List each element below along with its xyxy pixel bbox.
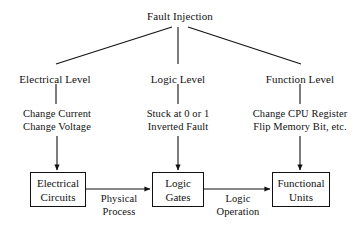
level-label-electrical: Electrical Level [19,73,91,86]
method-electrical-line2: Change Voltage [23,120,91,133]
box-electrical-circuits-line2: Circuits [41,190,76,204]
method-electrical-line1: Change Current [23,108,91,119]
edge-label-logic-operation: Logic Operation [217,192,260,218]
box-functional-units-line2: Units [289,190,313,204]
box-functional-units-line1: Functional [277,176,324,190]
edge-label-physical-process-line1: Physical [101,193,137,204]
connector-root-to-function [188,27,301,64]
box-logic-gates: Logic Gates [152,172,204,207]
fault-injection-diagram: Fault Injection Electrical Level Logic L… [0,0,363,228]
edge-label-physical-process-line2: Process [101,205,137,218]
box-logic-gates-line1: Logic [165,176,191,190]
edge-label-logic-operation-line2: Operation [217,205,260,218]
box-logic-gates-line2: Gates [165,190,190,204]
method-electrical: Change Current Change Voltage [23,107,91,133]
method-logic-line2: Inverted Fault [147,120,210,133]
root-node-label: Fault Injection [147,10,213,23]
box-electrical-circuits: Electrical Circuits [30,172,86,207]
level-label-logic: Logic Level [151,73,206,86]
edge-label-physical-process: Physical Process [101,192,137,218]
edge-label-logic-operation-line1: Logic [225,193,250,204]
method-logic-line1: Stuck at 0 or 1 [147,108,210,119]
level-label-function: Function Level [266,73,334,86]
method-function: Change CPU Register Flip Memory Bit, etc… [253,107,348,133]
method-function-line2: Flip Memory Bit, etc. [253,120,348,133]
method-logic: Stuck at 0 or 1 Inverted Fault [147,107,210,133]
box-functional-units: Functional Units [272,172,330,207]
box-electrical-circuits-line1: Electrical [37,176,79,190]
connector-root-to-electrical [56,27,172,64]
method-function-line1: Change CPU Register [253,108,348,119]
